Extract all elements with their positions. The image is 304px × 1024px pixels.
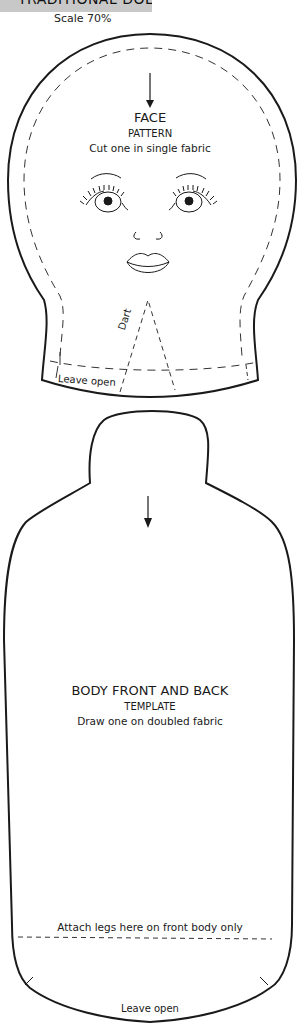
face-title: FACE [0,110,300,125]
lips-icon [127,254,169,273]
face-subtitle: PATTERN [0,128,300,139]
face-seam-line [24,48,280,356]
left-eye-icon [80,174,128,212]
grain-arrow-icon [146,73,154,108]
body-subtitle: TEMPLATE [0,701,300,712]
body-instruction: Draw one on doubled fabric [0,715,300,727]
body-title: BODY FRONT AND BACK [0,683,300,698]
face-instruction: Cut one in single fabric [0,142,300,154]
face-bottom-seam [50,361,258,370]
grain-arrow-icon [144,496,152,528]
nose-icon [134,232,162,239]
right-eye-icon [169,174,217,212]
face-outline [8,34,296,397]
attach-legs-label: Attach legs here on front body only [0,921,300,933]
body-leave-open: Leave open [0,1003,300,1014]
attach-legs-line [18,937,272,939]
